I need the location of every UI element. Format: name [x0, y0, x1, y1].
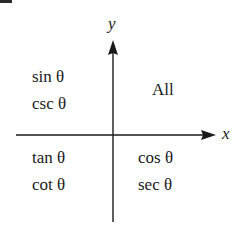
q4-sec: sec θ — [138, 171, 173, 198]
q3-tan: tan θ — [32, 144, 65, 171]
q2-csc: csc θ — [32, 90, 66, 117]
q3-cot: cot θ — [32, 171, 65, 198]
q4-cos: cos θ — [138, 144, 173, 171]
y-axis-arrow-icon — [108, 40, 118, 55]
q2-sin: sin θ — [32, 63, 66, 90]
x-axis-arrow-icon — [201, 130, 216, 140]
y-axis-label: y — [108, 14, 116, 34]
quadrant-3-labels: tan θ cot θ — [32, 144, 65, 198]
quadrant-2-labels: sin θ csc θ — [32, 63, 66, 117]
q1-all: All — [152, 76, 174, 103]
x-axis-label: x — [222, 124, 230, 144]
quadrant-1-labels: All — [152, 76, 174, 103]
quadrant-4-labels: cos θ sec θ — [138, 144, 173, 198]
